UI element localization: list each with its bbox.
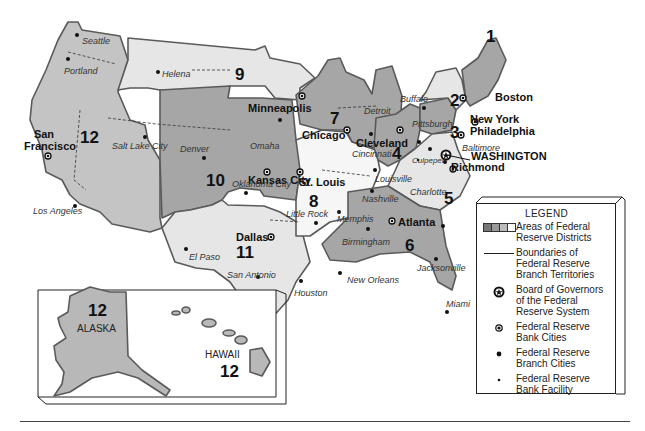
hawaii-district-number: 12 — [220, 363, 239, 380]
branch-detroit: Detroit — [364, 107, 391, 116]
legend-item: Federal Reserve Bank Facility — [482, 373, 611, 395]
bank-city-atlanta: Atlanta — [398, 217, 435, 228]
branch-helena: Helena — [162, 70, 191, 79]
branch-salt-lake-city: Salt Lake City — [112, 142, 168, 151]
branch-new-orleans: New Orleans — [347, 276, 399, 285]
branch-san-antonio: San Antonio — [227, 271, 276, 280]
legend-item: Federal Reserve Branch Cities — [482, 347, 611, 369]
branch-los-angeles: Los Angeles — [33, 207, 82, 216]
branch-jacksonville: Jacksonville — [417, 264, 466, 273]
branch-buffalo: Buffalo — [400, 95, 428, 104]
branch-baltimore: Baltimore — [462, 144, 500, 153]
district-number-11: 11 — [236, 244, 254, 261]
branch-omaha: Omaha — [250, 142, 280, 151]
district-number-12: 12 — [80, 129, 99, 146]
star-circle-icon — [482, 284, 516, 298]
district-number-7: 7 — [330, 110, 339, 127]
legend-title: LEGEND — [482, 208, 611, 219]
bank-city-new-york: New York — [470, 114, 519, 125]
branch-little-rock: Little Rock — [286, 210, 328, 219]
swatch-bar-icon — [482, 221, 516, 232]
large-dot-icon — [482, 347, 516, 359]
alaska-label: ALASKA — [77, 324, 116, 334]
branch-nashville: Nashville — [362, 195, 399, 204]
bank-city-philadelphia: Philadelphia — [470, 126, 535, 137]
branch-cincinnati: Cincinnati — [352, 150, 392, 159]
district-number-9: 9 — [235, 66, 244, 83]
branch-charlotte: Charlotte — [410, 188, 447, 197]
bank-city-chicago: Chicago — [302, 130, 345, 141]
branch-birmingham: Birmingham — [342, 238, 390, 247]
district-number-2: 2 — [450, 92, 459, 109]
branch-portland: Portland — [64, 67, 98, 76]
bank-city-cleveland: Cleveland — [356, 138, 408, 149]
small-dot-icon — [482, 373, 516, 385]
legend-item: Federal Reserve Bank Cities — [482, 321, 611, 343]
branch-louisville: Louisville — [375, 175, 412, 184]
district-number-1: 1 — [486, 28, 495, 45]
bank-city-san-francisco: San Francisco — [24, 128, 64, 152]
bank-city-dallas: Dallas — [236, 232, 268, 243]
branch-houston: Houston — [294, 289, 328, 298]
branch-el-paso: El Paso — [189, 253, 220, 262]
branch-pittsburgh: Pittsburgh — [412, 120, 453, 129]
legend: LEGEND Areas of Federal Reserve District… — [476, 203, 616, 394]
legend-item: Board of Governors of the Federal Reserv… — [482, 284, 611, 317]
district-number-6: 6 — [405, 237, 414, 254]
district-number-8: 8 — [309, 193, 318, 210]
bank-city-boston: Boston — [495, 92, 533, 103]
branch-miami: Miami — [446, 300, 470, 309]
bank-city-richmond: Richmond — [451, 162, 505, 173]
branch-culpeper: Culpeper — [412, 157, 444, 165]
legend-item: Boundaries of Federal Reserve Branch Ter… — [482, 247, 611, 280]
bank-city-minneapolis: Minneapolis — [248, 103, 312, 114]
district-number-10: 10 — [206, 172, 225, 189]
bullseye-dot-icon — [482, 321, 516, 333]
alaska-district-number: 12 — [88, 302, 107, 319]
branch-denver: Denver — [180, 145, 209, 154]
hawaii-label: HAWAII — [205, 350, 240, 360]
branch-seattle: Seattle — [82, 37, 110, 46]
solid-line-icon — [482, 247, 516, 254]
branch-memphis: Memphis — [337, 215, 374, 224]
branch-oklahoma-city: Oklahoma City — [232, 180, 291, 189]
legend-item: Areas of Federal Reserve Districts — [482, 221, 611, 243]
